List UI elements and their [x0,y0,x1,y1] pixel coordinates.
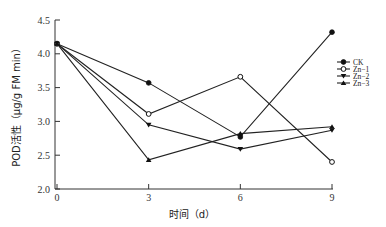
y-tick-label: 3.5 [38,82,51,93]
y-tick-label: 2.5 [38,150,51,161]
line-chart: 2.02.53.03.54.04.5 0369 POD活性（μg/g FM mi… [0,0,386,227]
y-tick-label: 4.0 [38,48,51,59]
legend-label: Zn−3 [353,79,370,88]
series-lines [57,32,332,162]
down-triangle-marker [238,147,244,152]
y-axis-title: POD活性（μg/g FM min） [10,43,22,167]
legend: CKZn−1Zn−2Zn−3 [337,58,370,88]
x-tick-label: 6 [238,192,243,203]
series-line-ck [57,32,332,137]
series-markers [54,30,335,165]
y-tick-label: 3.0 [38,116,51,127]
x-tick-label: 3 [146,192,151,203]
axes [55,20,333,189]
open-circle-marker [330,160,335,165]
x-axis-title: 时间（d） [169,208,215,220]
open-circle-marker [238,74,243,79]
x-tick-label: 9 [330,192,335,203]
filled-circle-marker [146,80,151,85]
filled-circle-marker [330,30,335,35]
x-tick-label: 0 [55,192,60,203]
y-tick-label: 2.0 [38,184,51,195]
open-circle-marker [146,112,151,117]
x-axis-ticks: 0369 [55,184,335,203]
legend-item: Zn−3 [337,79,370,88]
legend-open-circle-icon [341,67,346,72]
legend-filled-circle-icon [341,60,346,65]
y-tick-label: 4.5 [38,15,51,26]
